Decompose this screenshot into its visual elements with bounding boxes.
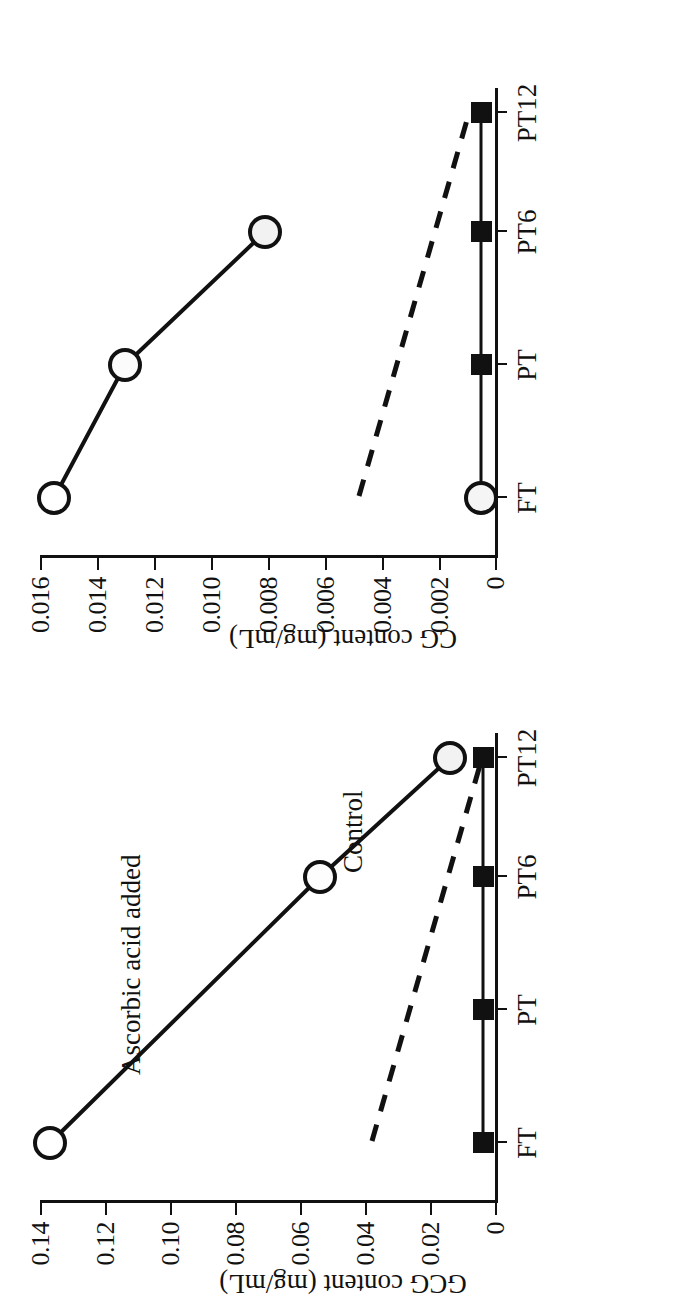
y-tick-label-gcg-0: 0.14 (28, 1222, 54, 1266)
y-axis-title-gcg-label: GCG content (mg/mL) (219, 1268, 466, 1299)
marker-control-cg-pt (471, 354, 492, 375)
marker-control-cg-pt12 (471, 102, 492, 123)
x-tick-label-cg-pt6: PT6 (514, 209, 541, 254)
y-tick-label-gcg-1: 0.12 (93, 1222, 119, 1266)
y-tick-label-cg-7: 0.002 (427, 577, 453, 633)
marker-control-gcg-pt12 (473, 747, 494, 768)
y-tick-gcg-5: 0.04 (365, 1203, 367, 1215)
y-tick-cg-6: 0.004 (382, 558, 384, 570)
y-tick-cg-2: 0.012 (154, 558, 156, 570)
y-tick-label-cg-4: 0.008 (256, 577, 282, 633)
series-line-ascorbic-cg (54, 232, 265, 498)
y-axis-title-gcg: GCG content (mg/mL) (219, 1268, 466, 1299)
y-tick-cg-8: 0 (495, 558, 497, 570)
figure-canvas: GCG content (mg/mL) 0.14 0.12 0.10 0.08 (0, 0, 686, 1299)
y-tick-cg-5: 0.006 (325, 558, 327, 570)
series-layer-gcg (40, 733, 498, 1203)
marker-ascorbic-gcg-pt6 (305, 862, 335, 892)
marker-ascorbic-gcg-pt12 (435, 743, 465, 773)
x-tick-label-gcg-pt12: PT12 (514, 729, 541, 788)
annotation-control: Control (340, 790, 367, 873)
series-line-ascorbic-gcg (50, 758, 450, 1143)
x-tick-label-cg-pt12: PT12 (514, 84, 541, 143)
y-tick-label-cg-6: 0.004 (370, 577, 396, 633)
plot-area-gcg: 0.14 0.12 0.10 0.08 0.06 0.04 0. (40, 733, 495, 1203)
marker-control-cg-pt6 (471, 221, 492, 242)
marker-ascorbic-cg-pt (110, 350, 140, 380)
series-dashed-cg (359, 113, 469, 496)
x-tick-label-gcg-pt: PT (514, 994, 541, 1026)
y-tick-gcg-2: 0.10 (170, 1203, 172, 1215)
y-tick-label-cg-1: 0.014 (85, 577, 111, 633)
y-tick-label-gcg-5: 0.04 (353, 1222, 379, 1266)
y-tick-label-gcg-4: 0.06 (288, 1222, 314, 1266)
annotation-ascorbic-acid-added: Ascorbic acid added (118, 855, 145, 1075)
x-tick-label-cg-pt: PT (514, 349, 541, 381)
chart-panel-cg: CG content (mg/mL) 0.016 0.014 0.012 0.0… (0, 4, 686, 654)
marker-control-gcg-pt6 (473, 866, 494, 887)
y-tick-label-cg-5: 0.006 (313, 577, 339, 633)
y-tick-gcg-6: 0.02 (430, 1203, 432, 1215)
y-tick-gcg-4: 0.06 (300, 1203, 302, 1215)
marker-ascorbic-cg-ft-baseline (466, 483, 496, 513)
y-tick-cg-1: 0.014 (97, 558, 99, 570)
y-tick-gcg-1: 0.12 (105, 1203, 107, 1215)
x-tick-label-gcg-ft: FT (514, 1127, 541, 1159)
y-tick-label-cg-0: 0.016 (28, 577, 54, 633)
y-tick-cg-4: 0.008 (268, 558, 270, 570)
y-tick-cg-7: 0.002 (439, 558, 441, 570)
y-tick-label-cg-2: 0.012 (142, 577, 168, 633)
y-tick-label-cg-3: 0.010 (199, 577, 225, 633)
series-layer-cg (40, 88, 498, 558)
y-tick-gcg-7: 0 (495, 1203, 497, 1215)
marker-ascorbic-cg-ft (39, 483, 69, 513)
y-tick-cg-0: 0.016 (40, 558, 42, 570)
plot-area-cg: 0.016 0.014 0.012 0.010 0.008 0.006 (40, 88, 495, 558)
marker-control-gcg-ft (473, 1132, 494, 1153)
y-tick-label-cg-8: 0 (483, 577, 509, 590)
y-tick-gcg-0: 0.14 (40, 1203, 42, 1215)
y-tick-cg-3: 0.010 (211, 558, 213, 570)
figure-rotator: GCG content (mg/mL) 0.14 0.12 0.10 0.08 (0, 0, 686, 1299)
marker-control-gcg-pt (473, 999, 494, 1020)
y-tick-gcg-3: 0.08 (235, 1203, 237, 1215)
y-tick-label-gcg-3: 0.08 (223, 1222, 249, 1266)
x-tick-label-gcg-pt6: PT6 (514, 854, 541, 899)
chart-panel-gcg: GCG content (mg/mL) 0.14 0.12 0.10 0.08 (0, 659, 686, 1299)
x-tick-label-cg-ft: FT (514, 482, 541, 514)
marker-ascorbic-cg-pt6 (250, 217, 280, 247)
marker-ascorbic-gcg-ft (35, 1128, 65, 1158)
y-tick-label-gcg-7: 0 (483, 1222, 509, 1235)
y-tick-label-gcg-6: 0.02 (418, 1222, 444, 1266)
y-tick-label-gcg-2: 0.10 (158, 1222, 184, 1266)
